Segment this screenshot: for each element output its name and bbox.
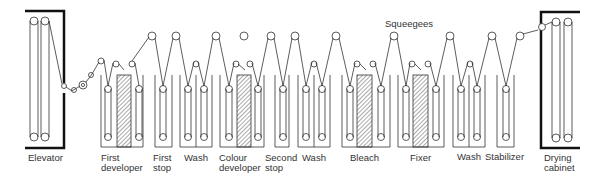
tank-wash-3	[453, 32, 506, 147]
tank-bleach	[342, 32, 406, 147]
label-second-stop: Second stop	[265, 153, 297, 173]
squeegees-annotation: Squeegees	[385, 18, 433, 29]
label-wash-3: Wash	[457, 152, 481, 162]
label-elevator: Elevator	[28, 153, 63, 163]
label-line: Stabilizer	[485, 152, 524, 162]
drying-cabinet-unit	[539, 12, 581, 148]
label-first-developer: First developer	[101, 153, 143, 173]
label-line: developer	[219, 163, 261, 173]
tank-first-developer	[98, 58, 143, 147]
label-line: Bleach	[350, 153, 379, 163]
label-line: Wash	[457, 152, 481, 162]
label-line: developer	[101, 163, 143, 173]
tank-fixer	[398, 32, 461, 147]
label-line: stop	[153, 163, 171, 173]
label-bleach: Bleach	[350, 153, 379, 163]
label-line: Fixer	[410, 153, 431, 163]
squeegee-roller	[240, 32, 248, 40]
label-colour-developer: Colour developer	[219, 153, 261, 173]
label-wash-1: Wash	[184, 153, 208, 163]
label-line: Wash	[184, 153, 208, 163]
tank-colour-developer	[220, 32, 283, 147]
label-line: cabinet	[544, 163, 575, 173]
label-wash-2: Wash	[302, 153, 326, 163]
label-drying-cabinet: Drying cabinet	[544, 153, 575, 173]
elevator-unit	[25, 11, 99, 148]
label-line: stop	[265, 163, 297, 173]
label-first-stop: First stop	[153, 153, 171, 173]
label-stabilizer: Stabilizer	[485, 152, 524, 162]
label-line: Wash	[302, 153, 326, 163]
label-line: Elevator	[28, 153, 63, 163]
tank-second-stop	[275, 32, 306, 147]
tank-stabilizer	[497, 30, 538, 147]
label-fixer: Fixer	[410, 153, 431, 163]
